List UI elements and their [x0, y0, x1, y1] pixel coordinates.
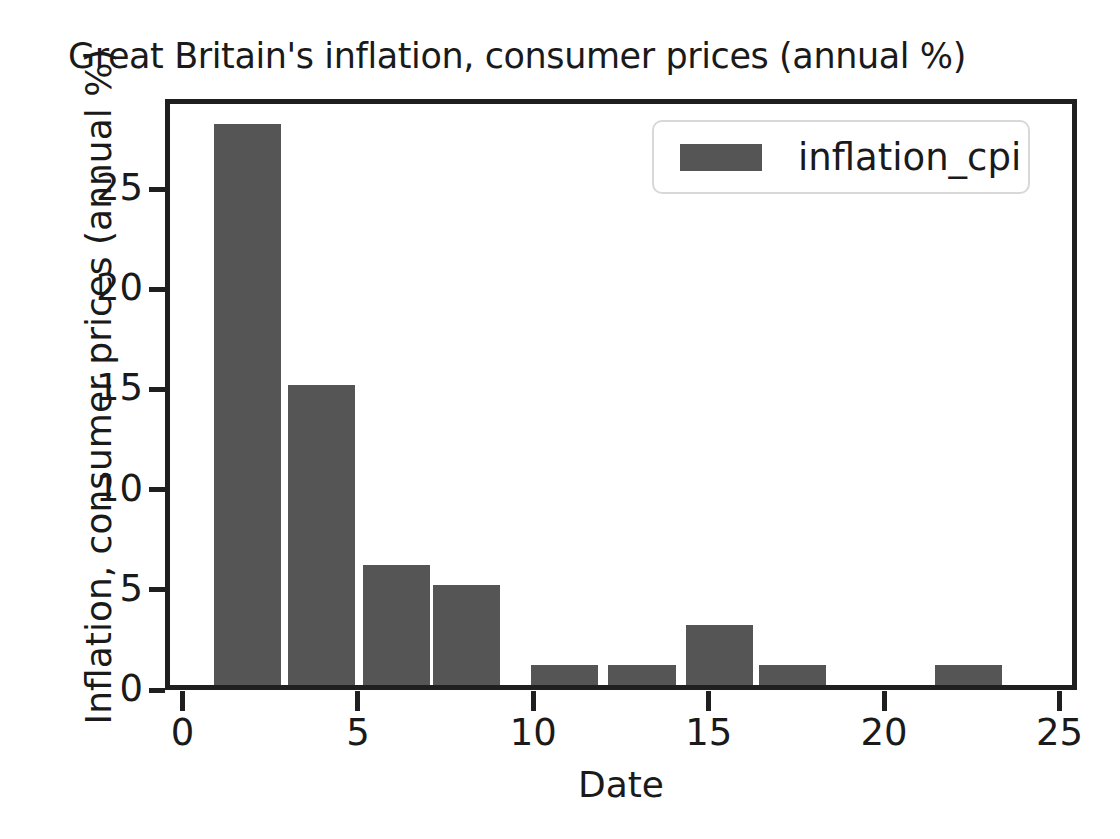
- chart-legend: inflation_cpi: [652, 120, 1030, 194]
- x-axis-label: Date: [165, 764, 1077, 805]
- bar: [935, 665, 1002, 685]
- y-tick-label: 25: [96, 169, 143, 206]
- x-tick-label: 5: [318, 714, 398, 751]
- y-tick-label: 20: [96, 269, 143, 306]
- chart-title: Great Britain's inflation, consumer pric…: [68, 36, 1118, 76]
- x-tick-label: 0: [143, 714, 223, 751]
- y-tick-mark: [149, 487, 165, 492]
- y-tick-label: 0: [119, 670, 143, 707]
- y-tick-mark: [149, 287, 165, 292]
- x-tick-label: 20: [844, 714, 924, 751]
- bar: [686, 625, 753, 685]
- x-tick-mark: [1057, 691, 1062, 711]
- y-tick-label: 15: [96, 369, 143, 406]
- bar: [433, 585, 500, 685]
- bar: [363, 565, 430, 685]
- bar: [288, 385, 355, 686]
- y-tick-mark: [149, 688, 165, 693]
- legend-label-inflation-cpi: inflation_cpi: [798, 136, 1021, 179]
- y-tick-label: 5: [119, 570, 143, 607]
- bar: [214, 124, 281, 685]
- x-tick-mark: [355, 691, 360, 711]
- bar: [759, 665, 826, 685]
- chart-figure: Great Britain's inflation, consumer pric…: [0, 0, 1120, 839]
- y-tick-mark: [149, 187, 165, 192]
- x-tick-label: 15: [669, 714, 749, 751]
- y-tick-mark: [149, 587, 165, 592]
- x-tick-mark: [531, 691, 536, 711]
- x-tick-mark: [180, 691, 185, 711]
- x-tick-mark: [706, 691, 711, 711]
- bar: [531, 665, 598, 685]
- legend-swatch-inflation-cpi: [680, 144, 762, 171]
- x-tick-label: 25: [1019, 714, 1099, 751]
- y-tick-mark: [149, 387, 165, 392]
- bar: [608, 665, 675, 685]
- y-tick-label: 10: [96, 470, 143, 507]
- x-tick-mark: [882, 691, 887, 711]
- x-tick-label: 10: [493, 714, 573, 751]
